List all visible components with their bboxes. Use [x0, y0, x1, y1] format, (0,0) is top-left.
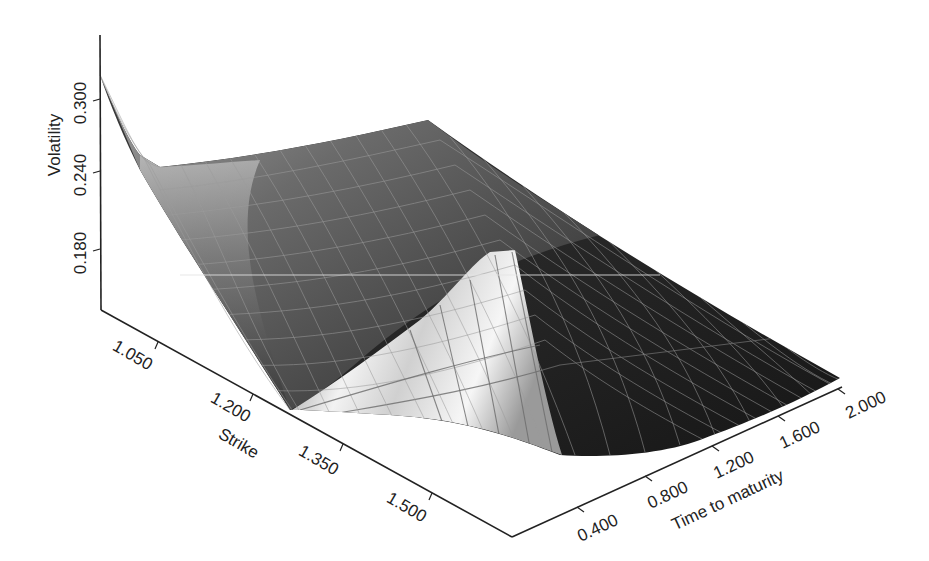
maturity-tick-label: 0.800	[644, 477, 691, 512]
strike-tick-label: 1.200	[208, 388, 254, 426]
maturity-tick-label: 1.600	[776, 417, 823, 452]
maturity-tick-label: 1.200	[710, 447, 757, 482]
strike-tick-label: 1.350	[296, 441, 342, 479]
z-tick-label: 0.180	[71, 232, 90, 275]
strike-axis-title: Strike	[215, 424, 262, 462]
z-tick-label: 0.300	[71, 82, 90, 125]
maturity-tick-label: 2.000	[842, 387, 889, 422]
strike-tick-label: 1.050	[110, 336, 156, 374]
z-axis-line	[100, 35, 101, 310]
maturity-tick-label: 0.400	[574, 510, 621, 545]
volatility-surface-chart: 0.300 0.240 0.180 Volatility 1.050 1.200…	[0, 0, 929, 561]
z-axis-title: Volatility	[45, 113, 64, 176]
strike-tick-label: 1.500	[384, 488, 430, 526]
surface	[100, 75, 850, 515]
z-tick-label: 0.240	[71, 154, 90, 197]
